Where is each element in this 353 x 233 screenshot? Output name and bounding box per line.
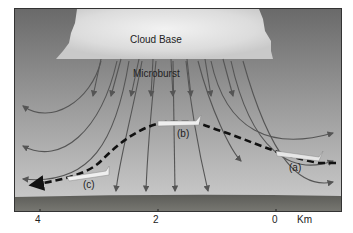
axis-unit-label: Km [297,214,312,225]
tick-label-2: 2 [153,214,159,225]
position-c-label: (c) [83,179,95,190]
position-a-label: (a) [289,162,301,173]
position-b-label: (b) [177,128,189,139]
ground [15,195,342,212]
cloud-base-label: Cloud Base [130,34,182,45]
microburst-label: Microburst [133,68,180,79]
tick-label-4: 4 [35,214,41,225]
tick-label-0: 0 [272,214,278,225]
